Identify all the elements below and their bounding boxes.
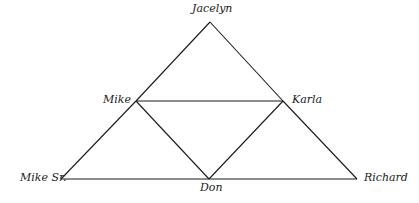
- label-mike-sr: Mike Sr.: [20, 172, 67, 184]
- label-karla: Karla: [292, 94, 322, 106]
- label-richard: Richard: [364, 172, 408, 184]
- label-don: Don: [200, 182, 223, 194]
- edge-karla-richard: [283, 101, 357, 179]
- edge-jacelyn-mike: [136, 22, 210, 101]
- edge-jacelyn-karla: [210, 22, 283, 101]
- label-mike: Mike: [103, 94, 131, 106]
- edge-karla-don: [209, 101, 283, 179]
- edge-mike-don: [136, 101, 209, 179]
- label-jacelyn: Jacelyn: [192, 3, 232, 15]
- edge-mike-mike_sr: [61, 101, 136, 179]
